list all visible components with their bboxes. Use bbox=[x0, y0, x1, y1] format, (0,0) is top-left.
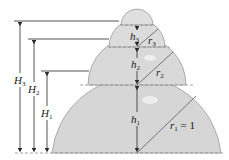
r1-label: r1 = 1 bbox=[170, 119, 195, 133]
highlight bbox=[144, 55, 156, 61]
highlight bbox=[142, 96, 158, 104]
stacked-spheres-diagram: H3 H2 H1 h1 h2 h3 r1 = 1 r2 r3 bbox=[0, 0, 229, 160]
sphere-cap-4 bbox=[121, 9, 153, 25]
